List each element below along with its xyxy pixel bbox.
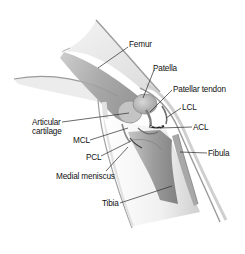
label-acl: ACL — [193, 123, 209, 132]
label-fibula: Fibula — [208, 149, 230, 158]
label-femur: Femur — [129, 40, 152, 49]
label-tibia: Tibia — [102, 199, 119, 208]
label-mcl: MCL — [73, 136, 90, 145]
label-lcl: LCL — [182, 103, 197, 112]
leader-fibula — [180, 152, 207, 153]
label-pcl: PCL — [86, 153, 102, 162]
label-patellar-tendon: Patellar tendon — [173, 85, 226, 94]
knee-anatomy-diagram: Femur Patella Patellar tendon LCL ACL Ar… — [0, 0, 245, 254]
label-articular: Articular — [32, 118, 61, 127]
leader-acl — [160, 127, 192, 128]
label-medial-meniscus: Medial meniscus — [56, 172, 115, 181]
patella-shape — [133, 94, 157, 114]
label-cartilage: cartilage — [32, 127, 62, 136]
label-patella: Patella — [153, 64, 178, 73]
